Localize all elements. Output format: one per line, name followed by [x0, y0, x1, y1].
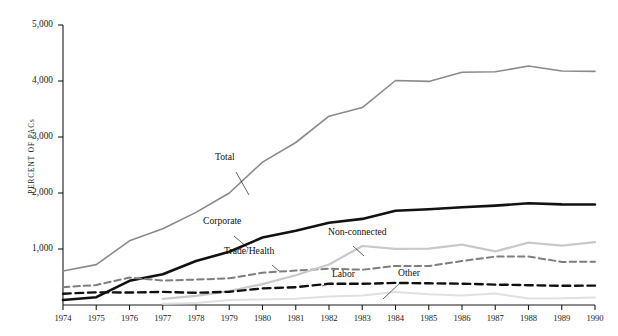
- y-tick-label: 1,000: [11, 243, 53, 253]
- series-line-total: [63, 66, 595, 271]
- series-line-labor: [63, 283, 595, 294]
- y-tick-label: 5,000: [11, 19, 53, 29]
- annotation-leader: [272, 265, 279, 271]
- annotation-leader: [383, 283, 400, 299]
- series-label-corporate: Corporate: [203, 215, 241, 226]
- plot-area: [0, 0, 618, 336]
- series-label-total: Total: [215, 151, 235, 162]
- series-label-labor: Labor: [332, 268, 355, 279]
- series-label-trade-health: Trade/Health: [224, 245, 274, 256]
- series-label-other: Other: [398, 267, 420, 278]
- y-tick-label: 4,000: [11, 75, 53, 85]
- series-line-other: [163, 292, 595, 304]
- x-tick-label: 1990: [575, 313, 615, 323]
- y-tick-label: 2,000: [11, 187, 53, 197]
- pac-growth-line-chart: PERCENT OF PACs 1,0002,0003,0004,0005,00…: [0, 0, 618, 336]
- y-tick-label: 3,000: [11, 131, 53, 141]
- series-label-non-connected: Non-connected: [328, 226, 387, 237]
